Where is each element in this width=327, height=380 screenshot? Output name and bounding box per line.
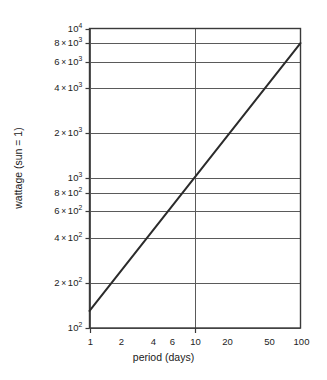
y-tick-label: 104 — [68, 23, 83, 34]
x-tick-label: 100 — [282, 336, 322, 347]
plot-canvas — [0, 0, 327, 380]
y-tick-label: 103 — [68, 172, 83, 183]
y-tick-label: 2×102 — [54, 277, 82, 288]
y-tick-label: 102 — [68, 322, 83, 333]
y-tick-label: 8×102 — [54, 187, 82, 198]
x-tick-label: 20 — [208, 336, 248, 347]
x-axis-title: period (days) — [0, 351, 327, 363]
y-tick-label: 8×103 — [54, 37, 82, 48]
y-axis-title: wattage (sun = 1) — [12, 88, 24, 248]
y-tick-label: 6×102 — [54, 205, 82, 216]
y-tick-label: 2×103 — [54, 127, 82, 138]
y-tick-label: 4×103 — [54, 82, 82, 93]
chart-figure: 1048×1036×1034×1032×1031038×1026×1024×10… — [0, 0, 327, 380]
y-tick-label: 6×103 — [54, 56, 82, 67]
y-tick-label: 4×102 — [54, 232, 82, 243]
